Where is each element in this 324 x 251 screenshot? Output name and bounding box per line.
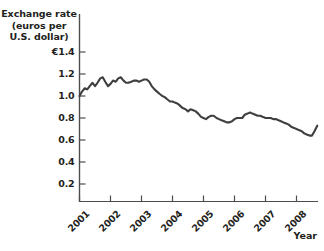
y-axis-ticks [80, 52, 86, 184]
y-axis-tick-label: 0.8 [35, 112, 75, 123]
y-axis-tick-label: 0.4 [35, 156, 75, 167]
axes-lines [80, 14, 319, 202]
exchange-rate-chart-figure: Exchange rate (euros per U.S. dollar) €1… [0, 0, 324, 251]
y-axis-tick-label: 0.6 [35, 134, 75, 145]
y-axis-tick-label: 1.2 [35, 68, 75, 79]
x-axis-ticks [80, 196, 297, 202]
y-axis-tick-label: 0.2 [35, 178, 75, 189]
exchange-rate-line [80, 77, 318, 135]
y-axis-tick-label: 1.0 [35, 90, 75, 101]
y-axis-tick-label: €1.4 [35, 46, 75, 57]
x-axis-name: Year [293, 230, 317, 241]
